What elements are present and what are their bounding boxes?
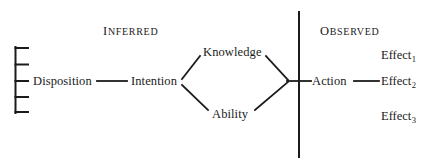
node-effect-1: Effect1 — [381, 49, 416, 62]
header-observed-initial: O — [320, 24, 330, 38]
effect-1-subscript: 1 — [412, 54, 416, 64]
header-observed: OBSERVED — [320, 22, 379, 38]
effect-2-label: Effect — [381, 74, 411, 88]
effect-1-label: Effect — [381, 48, 411, 62]
inferred-observed-diagram: INFERRED OBSERVED Disposition Intention … — [0, 0, 437, 165]
header-inferred: INFERRED — [103, 22, 158, 38]
effect-2-subscript: 2 — [412, 80, 416, 90]
edge-intention-knowledge — [182, 56, 200, 79]
effect-3-subscript: 3 — [412, 115, 416, 125]
node-disposition: Disposition — [33, 75, 92, 88]
node-knowledge: Knowledge — [203, 46, 262, 59]
node-ability: Ability — [212, 108, 248, 121]
edge-knowledge-junction — [266, 56, 288, 80]
header-observed-rest: BSERVED — [330, 26, 380, 37]
node-effect-3: Effect3 — [381, 110, 416, 123]
header-inferred-rest: NFERRED — [108, 26, 158, 37]
node-effect-2: Effect2 — [381, 75, 416, 88]
effect-3-label: Effect — [381, 109, 411, 123]
node-intention: Intention — [131, 75, 177, 88]
edge-ability-junction — [255, 82, 288, 110]
edge-intention-ability — [182, 85, 208, 110]
node-action: Action — [312, 75, 347, 88]
